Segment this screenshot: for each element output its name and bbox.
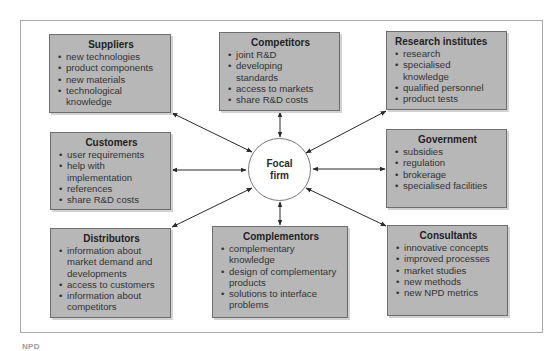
list-item: research	[395, 48, 500, 59]
competitors-box: Competitors joint R&D developing standar…	[219, 32, 340, 111]
consultants-list: innovative concepts improved processes m…	[396, 242, 501, 298]
government-list: subsidies regulation brokerage specialis…	[395, 146, 500, 191]
list-item: improved processes	[396, 253, 501, 264]
figure-caption: NPD	[22, 342, 40, 351]
research-institutes-list: research specialised knowledge qualified…	[395, 48, 500, 104]
list-item: brokerage	[395, 169, 500, 180]
government-title: Government	[395, 134, 500, 145]
focal-label-line1: Focal	[266, 158, 292, 170]
focal-firm-node: Focal firm	[248, 138, 311, 201]
list-item: help with implementation	[59, 160, 147, 182]
list-item: solutions to interface problems	[221, 288, 339, 310]
suppliers-box: Suppliers new technologies product compo…	[49, 34, 171, 113]
list-item: new materials	[58, 74, 164, 85]
research-institutes-title: Research institutes	[395, 36, 500, 47]
list-item: user requirements	[59, 149, 164, 160]
list-item: complementary knowledge	[221, 243, 311, 265]
list-item: new NPD metrics	[396, 287, 501, 298]
customers-box: Customers user requirements help with im…	[50, 132, 171, 210]
list-item: share R&D costs	[59, 194, 164, 205]
list-item: qualified personnel	[395, 82, 500, 93]
list-item: specialised facilities	[395, 180, 500, 191]
list-item: new technologies	[58, 51, 164, 62]
competitors-list: joint R&D developing standards access to…	[228, 49, 333, 105]
list-item: access to markets	[228, 83, 333, 94]
list-item: access to customers	[59, 279, 164, 290]
list-item: joint R&D	[228, 49, 333, 60]
list-item: design of complementary products	[221, 266, 353, 288]
distributors-box: Distributors information about market de…	[50, 228, 171, 318]
customers-title: Customers	[59, 137, 164, 148]
list-item: developing standards	[228, 60, 296, 82]
complementors-list: complementary knowledge design of comple…	[221, 243, 341, 310]
complementors-box: Complementors complementary knowledge de…	[212, 226, 348, 318]
list-item: share R&D costs	[228, 94, 333, 105]
suppliers-list: new technologies product components new …	[58, 51, 164, 107]
list-item: new methods	[396, 276, 501, 287]
list-item: market studies	[396, 265, 501, 276]
list-item: information about market demand and deve…	[59, 245, 165, 279]
competitors-title: Competitors	[228, 37, 333, 48]
research-institutes-box: Research institutes research specialised…	[386, 31, 507, 110]
list-item: subsidies	[395, 146, 500, 157]
consultants-title: Consultants	[396, 230, 501, 241]
list-item: regulation	[395, 157, 500, 168]
list-item: references	[59, 183, 164, 194]
complementors-title: Complementors	[221, 231, 341, 242]
arrow-consultants	[306, 188, 386, 226]
distributors-title: Distributors	[59, 233, 164, 244]
consultants-box: Consultants innovative concepts improved…	[387, 225, 508, 316]
focal-label-line2: firm	[266, 170, 292, 182]
arrow-distributors	[172, 188, 252, 227]
list-item: information about competitors	[59, 290, 157, 312]
customers-list: user requirements help with implementati…	[59, 149, 164, 205]
arrow-research	[306, 111, 386, 153]
list-item: product components	[58, 62, 164, 73]
list-item: innovative concepts	[396, 242, 501, 253]
list-item: specialised knowledge	[395, 59, 463, 81]
distributors-list: information about market demand and deve…	[59, 245, 164, 312]
government-box: Government subsidies regulation brokerag…	[386, 129, 507, 208]
suppliers-title: Suppliers	[58, 39, 164, 50]
list-item: technological knowledge	[58, 85, 138, 107]
arrow-suppliers	[172, 113, 252, 152]
list-item: product tests	[395, 93, 500, 104]
